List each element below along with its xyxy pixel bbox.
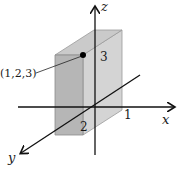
z-axis-label: z: [100, 0, 108, 14]
y-axis-label: y: [7, 150, 16, 165]
x-tick-label: 1: [124, 108, 132, 122]
box-front-face: [55, 55, 83, 135]
z-tick-label: 3: [100, 50, 108, 64]
point-label: (1,2,3): [0, 67, 37, 80]
x-axis-label: x: [162, 112, 170, 127]
point-marker: [80, 52, 86, 58]
coordinate-diagram: z x y 1 2 3 (1,2,3): [0, 0, 178, 173]
y-tick-label: 2: [80, 120, 88, 134]
